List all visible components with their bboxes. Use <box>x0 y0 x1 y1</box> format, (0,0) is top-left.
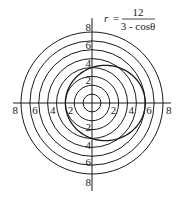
equation-equals: = <box>113 12 119 24</box>
equation-numerator: 12 <box>133 6 144 18</box>
tick-label-down-4: 4 <box>86 139 92 151</box>
tick-label-up-2: 2 <box>86 74 92 86</box>
tick-label-right-4: 4 <box>129 104 135 116</box>
tick-label-right-2: 2 <box>111 104 117 116</box>
tick-label-left-8: 8 <box>13 104 19 116</box>
tick-label-up-4: 4 <box>86 57 92 69</box>
tick-label-left-2: 2 <box>68 104 74 116</box>
tick-label-right-6: 6 <box>146 104 152 116</box>
tick-label-left-4: 4 <box>50 104 56 116</box>
tick-label-down-2: 2 <box>86 121 92 133</box>
equation-label: r = 12 3 - cosθ <box>104 6 155 32</box>
polar-chart: 2468246824682468 r = 12 3 - cosθ <box>0 0 180 204</box>
tick-label-left-6: 6 <box>32 104 38 116</box>
tick-label-right-8: 8 <box>166 104 172 116</box>
equation-denominator: 3 - cosθ <box>121 20 156 32</box>
tick-label-down-6: 6 <box>86 156 92 168</box>
tick-label-down-8: 8 <box>86 176 92 188</box>
equation-lhs: r <box>104 12 109 24</box>
tick-label-up-8: 8 <box>86 21 92 33</box>
tick-label-up-6: 6 <box>86 39 92 51</box>
